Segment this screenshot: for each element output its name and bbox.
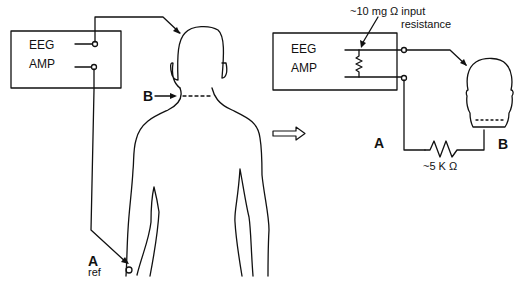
eeg-circuit-diagram: EEG AMP B A ref EEG AMP ~10 mg Ω input r… bbox=[0, 0, 517, 282]
input-resistance-label: ~10 mg Ω input bbox=[350, 6, 425, 17]
left-amp-label-amp: AMP bbox=[29, 58, 55, 70]
right-amp-label-amp: AMP bbox=[291, 62, 317, 74]
b-arrowhead bbox=[170, 93, 177, 99]
label-ref: ref bbox=[88, 267, 101, 278]
left-wire-scalp bbox=[95, 17, 180, 42]
label-b-left: B bbox=[143, 89, 153, 103]
label-a-right: A bbox=[374, 136, 384, 150]
left-amp-box bbox=[11, 31, 121, 88]
person-outline bbox=[126, 27, 269, 276]
right-wire-scalp bbox=[406, 50, 466, 65]
right-wire-a bbox=[404, 80, 425, 150]
left-wire-ref bbox=[91, 69, 127, 263]
right-arrow-icon bbox=[273, 127, 305, 140]
right-amp-label-eeg: EEG bbox=[291, 43, 316, 55]
diagram-lines bbox=[0, 0, 517, 282]
input-resistor bbox=[356, 50, 362, 77]
label-b-right: B bbox=[498, 137, 508, 151]
input-resistance-pointer bbox=[362, 17, 378, 44]
body-resistor bbox=[425, 130, 484, 157]
small-head-outline bbox=[466, 58, 513, 127]
left-amp-label-eeg: EEG bbox=[29, 39, 54, 51]
input-resistance-label-2: resistance bbox=[401, 19, 451, 30]
body-resistance-label: ~5 K Ω bbox=[423, 161, 457, 172]
